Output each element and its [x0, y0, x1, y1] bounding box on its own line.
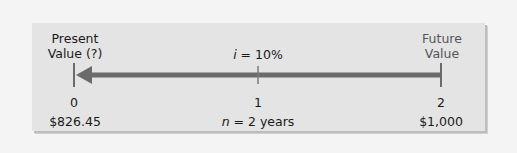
- future-value-label: Future Value: [412, 31, 472, 61]
- term-variable: n: [222, 114, 230, 129]
- rate-value: = 10%: [237, 47, 283, 62]
- interest-rate-label: i = 10%: [218, 47, 298, 62]
- timeline-axis: [0, 0, 517, 153]
- period-1: 1: [248, 95, 268, 110]
- period-0: 0: [64, 95, 84, 110]
- future-value-amount: $1,000: [411, 114, 471, 129]
- term-value: = 2 years: [230, 114, 295, 129]
- present-label-line1: Present: [44, 31, 106, 46]
- future-label-line1: Future: [412, 31, 472, 46]
- arrow-left-icon: [76, 66, 92, 84]
- present-value-label: Present Value (?): [44, 31, 106, 61]
- future-label-line2: Value: [412, 46, 472, 61]
- present-value-amount: $826.45: [44, 114, 106, 129]
- period-2: 2: [431, 95, 451, 110]
- present-label-line2: Value (?): [44, 46, 106, 61]
- term-label: n = 2 years: [208, 114, 308, 129]
